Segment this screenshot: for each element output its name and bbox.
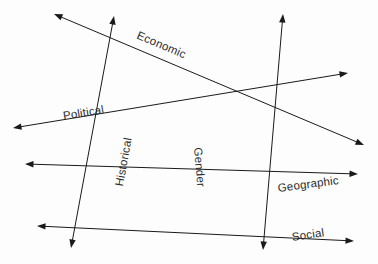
arrow-head-gender-start [279,14,285,23]
arrow-head-gender-end [261,241,267,250]
arrow-head-social-end [345,237,354,243]
arrow-head-geographic-start [25,161,34,167]
arrow-head-social-start [37,223,46,229]
arrow-head-economic-start [54,14,63,20]
axes-canvas [0,0,378,264]
arrow-head-economic-end [355,139,364,145]
arrow-head-political-start [13,123,22,129]
arrow-head-geographic-end [349,171,358,177]
axis-line-historical [72,22,113,242]
arrow-head-historical-end [69,239,75,248]
axis-line-geographic [31,164,352,174]
arrow-head-political-end [339,71,348,77]
axis-line-economic [60,16,359,142]
axes-diagram: EconomicPoliticalHistoricalGenderGeograp… [0,0,378,264]
arrow-head-historical-start [109,16,115,25]
axis-line-gender [264,20,283,244]
